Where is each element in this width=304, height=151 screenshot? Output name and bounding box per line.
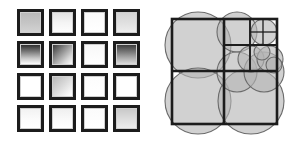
grid-cell-fill-r2c2 [52,44,73,65]
grid-cell-fill-r1c1 [20,12,41,33]
grid-cell-fill-r1c3 [84,12,105,33]
grid-cell-fill-r3c1 [20,76,41,97]
grid-cell-r1c3 [81,9,108,36]
grid-cell-r3c1 [17,73,44,100]
grid-cell-r1c4 [113,9,140,36]
recursive-circle-square-packing [150,0,304,151]
grid-cell-fill-r4c1 [20,108,41,129]
grid-cell-fill-r3c2 [52,76,73,97]
figure-root [0,0,304,151]
grid-cell-r3c3 [81,73,108,100]
grid-cell-r4c2 [49,105,76,132]
circle-d-q4-tl [254,44,270,60]
grid-cell-fill-r3c3 [84,76,105,97]
grid-cell-fill-r3c4 [116,76,137,97]
grid-cell-r1c2 [49,9,76,36]
gradient-square-grid [0,0,150,151]
grid-cell-r3c2 [49,73,76,100]
grid-cell-fill-r1c4 [116,12,137,33]
grid-cell-r4c3 [81,105,108,132]
grid-cell-fill-r4c2 [52,108,73,129]
circles-svg [150,0,304,151]
grid-cell-r1c1 [17,9,44,36]
grid-cell-r2c1 [17,41,44,68]
grid-cell-r2c3 [81,41,108,68]
grid-cell-fill-r2c1 [20,44,41,65]
grid-cell-r2c4 [113,41,140,68]
grid-cell-fill-r4c4 [116,108,137,129]
grid-cell-fill-r1c2 [52,12,73,33]
grid-cell-r3c4 [113,73,140,100]
grid-cell-fill-r4c3 [84,108,105,129]
grid-cell-fill-r2c4 [116,44,137,65]
grid-cell-r4c4 [113,105,140,132]
grid-cell-fill-r2c3 [84,44,105,65]
grid-cell-r4c1 [17,105,44,132]
grid-cell-r2c2 [49,41,76,68]
